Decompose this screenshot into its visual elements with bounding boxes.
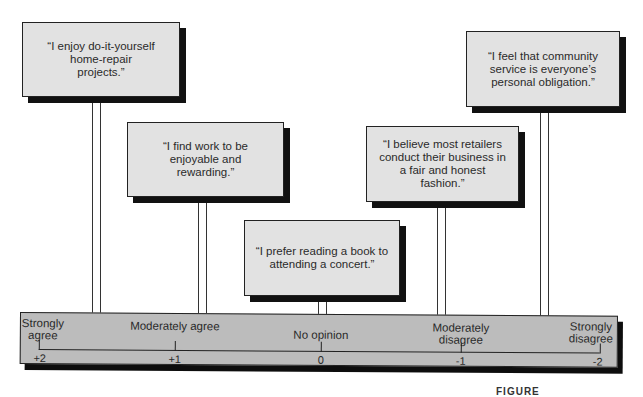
statement-text: “I feel that community service is everyo… xyxy=(486,50,601,89)
tick-plus-1 xyxy=(175,341,176,351)
tick-plus-2 xyxy=(39,340,40,350)
tick-minus-1 xyxy=(461,343,462,353)
scale-label-strongly-agree: Strongly agree xyxy=(13,317,73,341)
pole-2 xyxy=(198,200,207,313)
tick-minus-2 xyxy=(600,344,601,354)
scale-value-plus-2: +2 xyxy=(25,352,55,364)
likert-scale-bar: Strongly agree Moderately agree No opini… xyxy=(20,312,618,368)
scale-value-minus-2: -2 xyxy=(583,355,613,367)
scale-label-no-opinion: No opinion xyxy=(276,329,366,342)
statement-card-4: “I believe most retailers conduct their … xyxy=(366,126,519,202)
statement-card-3: “I prefer reading a book to attending a … xyxy=(244,220,400,296)
statement-text: “I find work to be enjoyable and rewardi… xyxy=(143,140,268,179)
scale-label-strongly-disagree: Strongly disagree xyxy=(561,320,621,344)
pole-1 xyxy=(92,100,101,313)
figure-caption: FIGURE xyxy=(496,386,540,397)
statement-card-1: “I enjoy do-it-yourself home-repair proj… xyxy=(22,22,180,97)
scale-value-minus-1: -1 xyxy=(446,355,476,367)
statement-text: “I enjoy do-it-yourself home-repair proj… xyxy=(45,40,157,79)
scale-value-plus-1: +1 xyxy=(160,353,190,365)
statement-text: “I believe most retailers conduct their … xyxy=(377,138,509,190)
pole-4 xyxy=(437,205,446,315)
pole-5 xyxy=(540,110,549,316)
statement-card-2: “I find work to be enjoyable and rewardi… xyxy=(127,122,284,197)
scale-value-zero: 0 xyxy=(306,354,336,366)
statement-card-5: “I feel that community service is everyo… xyxy=(466,31,620,107)
tick-zero xyxy=(321,342,322,352)
statement-text: “I prefer reading a book to attending a … xyxy=(255,245,390,271)
pole-3 xyxy=(318,298,327,314)
scale-label-moderately-agree: Moderately agree xyxy=(130,320,220,333)
